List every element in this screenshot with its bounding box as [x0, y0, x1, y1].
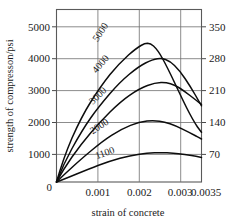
horizontal-gridlines — [57, 27, 202, 155]
right-axis-ticks — [202, 27, 207, 155]
curve-label-2000: 2000 — [88, 116, 111, 136]
y-tick-label-5000: 5000 — [28, 21, 51, 33]
x-tick-label-0.001: 0.001 — [86, 186, 111, 198]
y-tick-label-3000: 3000 — [28, 84, 51, 96]
right-tick-labels: 350 280 210 140 70 — [209, 21, 226, 161]
x-tick-label-0.002: 0.002 — [127, 186, 152, 198]
left-tick-labels: 5000 4000 3000 2000 1000 0 — [28, 21, 53, 193]
y-right-tick-label-140: 140 — [209, 116, 226, 128]
curve-label-3000: 3000 — [87, 85, 109, 107]
x-tick-label-0.0035: 0.0035 — [191, 186, 222, 198]
x-tick-label-0.003: 0.003 — [168, 186, 193, 198]
y-tick-label-4000: 4000 — [28, 52, 51, 64]
chart-svg: 5000 4000 3000 2000 1000 0 350 280 210 1… — [0, 0, 232, 224]
y-right-tick-label-210: 210 — [209, 84, 226, 96]
curve-4000-path — [57, 59, 202, 182]
left-axis-ticks — [52, 27, 57, 155]
curves-group — [57, 43, 202, 182]
y-right-tick-label-350: 350 — [209, 21, 226, 33]
y-right-tick-label-70: 70 — [209, 148, 221, 160]
curve-label-5000: 5000 — [90, 21, 110, 44]
x-axis-title: strain of concrete — [92, 207, 165, 218]
curve-3000-path — [57, 83, 202, 182]
stress-strain-chart: 5000 4000 3000 2000 1000 0 350 280 210 1… — [0, 0, 232, 224]
y-tick-label-0: 0 — [47, 181, 53, 193]
y-right-tick-label-280: 280 — [209, 52, 226, 64]
curve-1100-path — [57, 153, 202, 182]
curve-label-4000: 4000 — [90, 53, 111, 75]
y-axis-title: strength of compresson/psi — [4, 39, 15, 152]
x-tick-labels: 0.001 0.002 0.003 0.0035 — [86, 186, 222, 198]
y-tick-label-1000: 1000 — [28, 148, 51, 160]
y-tick-label-2000: 2000 — [28, 116, 51, 128]
